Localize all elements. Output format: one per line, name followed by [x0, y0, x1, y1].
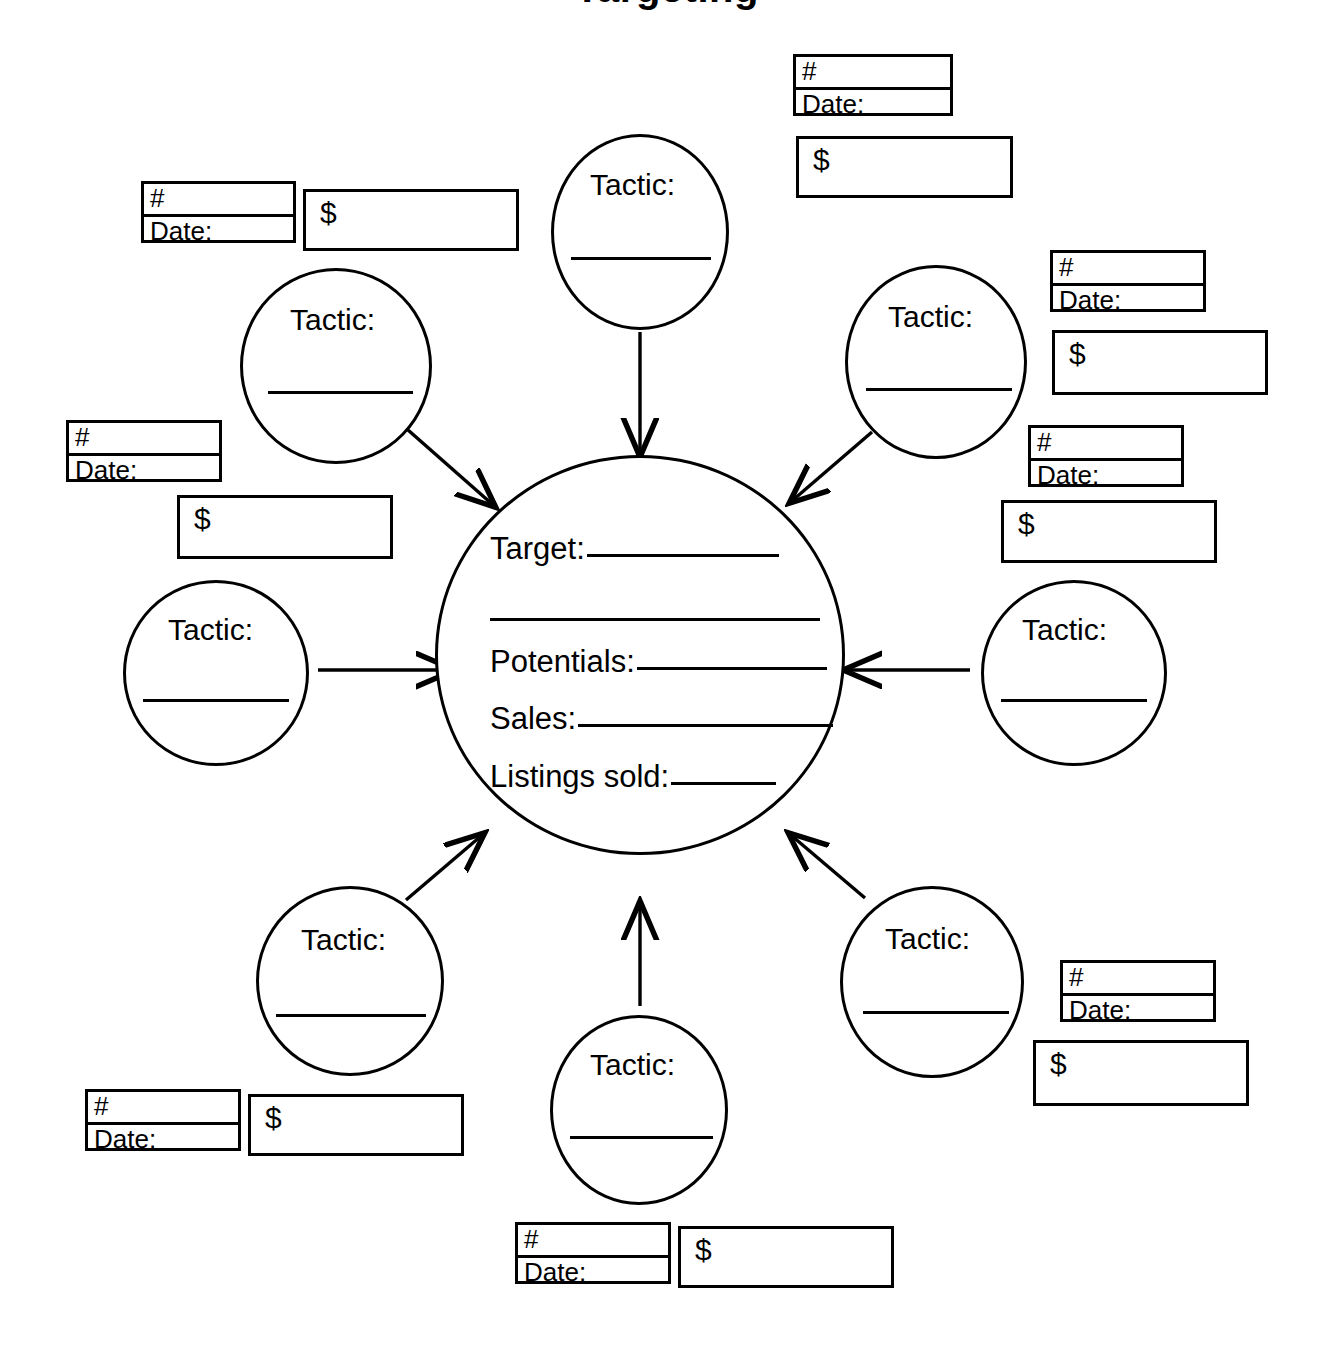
tactic-circle-bottom[interactable]: Tactic:: [550, 1015, 728, 1205]
annotation-right-lower-amount[interactable]: $: [1033, 1040, 1249, 1106]
tactic-blank-bottom-right[interactable]: [863, 1011, 1009, 1014]
tactic-label-top-left: Tactic:: [290, 305, 375, 335]
annotation-count-label[interactable]: #: [1053, 253, 1203, 286]
annotation-date-label[interactable]: Date:: [796, 90, 950, 120]
annotation-right-lower-hashdate[interactable]: # Date:: [1060, 960, 1216, 1022]
annotation-left-upper-amount[interactable]: $: [177, 495, 393, 559]
tactic-label-bottom-right: Tactic:: [885, 924, 970, 954]
annotation-bottom-left-amount[interactable]: $: [248, 1094, 464, 1156]
center-label-sales: Sales:: [490, 703, 576, 734]
tactic-label-bottom-left: Tactic:: [301, 925, 386, 955]
annotation-count-label[interactable]: #: [144, 184, 293, 217]
arrow-top-left: [408, 430, 492, 504]
annotation-count-label[interactable]: #: [88, 1092, 238, 1125]
annotation-date-label[interactable]: Date:: [518, 1258, 668, 1288]
listings-sold-blank[interactable]: [671, 782, 776, 785]
tactic-circle-left[interactable]: Tactic:: [123, 580, 309, 766]
annotation-count-label[interactable]: #: [796, 57, 950, 90]
arrow-bottom-right: [792, 836, 865, 898]
tactic-circle-top-right[interactable]: Tactic:: [845, 265, 1027, 459]
tactic-label-top-right: Tactic:: [888, 302, 973, 332]
annotation-date-label[interactable]: Date:: [1063, 996, 1213, 1026]
tactic-label-bottom: Tactic:: [590, 1050, 675, 1080]
arrow-top-right: [793, 432, 872, 500]
tactic-circle-right[interactable]: Tactic:: [981, 580, 1167, 766]
center-label-target: Target:: [490, 533, 585, 564]
target-blank[interactable]: [587, 554, 779, 557]
annotation-bottom-amount[interactable]: $: [678, 1226, 894, 1288]
annotation-left-upper-hashdate[interactable]: # Date:: [66, 420, 222, 482]
annotation-count-label[interactable]: #: [1063, 963, 1213, 996]
tactic-label-left: Tactic:: [168, 615, 253, 645]
annotation-count-label[interactable]: #: [518, 1225, 668, 1258]
center-label-listings-sold: Listings sold:: [490, 761, 669, 792]
tactic-blank-left[interactable]: [143, 699, 289, 702]
annotation-right-middle-hashdate[interactable]: # Date:: [1028, 425, 1184, 487]
arrow-bottom-left: [406, 836, 481, 900]
annotation-bottom-hashdate[interactable]: # Date:: [515, 1222, 671, 1284]
target-circle[interactable]: Target: Potentials: Sales: Listings sold…: [435, 455, 845, 855]
annotation-bottom-left-hashdate[interactable]: # Date:: [85, 1089, 241, 1151]
center-line-target: Target:: [490, 533, 779, 564]
annotation-date-label[interactable]: Date:: [69, 456, 219, 486]
worksheet-page: Targeting Target:: [0, 0, 1334, 1367]
annotation-count-label[interactable]: #: [69, 423, 219, 456]
annotation-top-left-hashdate[interactable]: # Date:: [141, 181, 296, 243]
tactic-blank-bottom[interactable]: [570, 1136, 713, 1139]
tactic-blank-top-left[interactable]: [268, 391, 413, 394]
annotation-count-label[interactable]: #: [1031, 428, 1181, 461]
sales-blank[interactable]: [578, 724, 833, 727]
annotation-top-right-hashdate[interactable]: # Date:: [793, 54, 953, 116]
annotation-date-label[interactable]: Date:: [1053, 286, 1203, 316]
annotation-date-label[interactable]: Date:: [1031, 461, 1181, 491]
center-label-potentials: Potentials:: [490, 646, 635, 677]
tactic-circle-bottom-right[interactable]: Tactic:: [840, 886, 1024, 1078]
annotation-right-middle-amount[interactable]: $: [1001, 500, 1217, 563]
center-line-sales: Sales:: [490, 703, 833, 734]
annotation-top-left-amount[interactable]: $: [303, 189, 519, 251]
annotation-date-label[interactable]: Date:: [88, 1125, 238, 1155]
center-line-potentials: Potentials:: [490, 646, 827, 677]
center-line-listings-sold: Listings sold:: [490, 761, 776, 792]
target-continuation-blank[interactable]: [490, 618, 820, 621]
tactic-blank-bottom-left[interactable]: [276, 1014, 426, 1017]
annotation-right-upper-hashdate[interactable]: # Date:: [1050, 250, 1206, 312]
tactic-circle-top[interactable]: Tactic:: [551, 134, 729, 330]
annotation-right-upper-amount[interactable]: $: [1052, 330, 1268, 395]
tactic-blank-top-right[interactable]: [866, 388, 1012, 391]
tactic-circle-top-left[interactable]: Tactic:: [240, 268, 432, 464]
tactic-blank-top[interactable]: [571, 257, 711, 260]
tactic-label-top: Tactic:: [590, 170, 675, 200]
annotation-top-right-amount[interactable]: $: [796, 136, 1013, 198]
tactic-label-right: Tactic:: [1022, 615, 1107, 645]
page-title: Targeting: [0, 0, 1334, 11]
tactic-circle-bottom-left[interactable]: Tactic:: [256, 886, 444, 1076]
tactic-blank-right[interactable]: [1001, 699, 1147, 702]
potentials-blank[interactable]: [637, 667, 827, 670]
annotation-date-label[interactable]: Date:: [144, 217, 293, 247]
